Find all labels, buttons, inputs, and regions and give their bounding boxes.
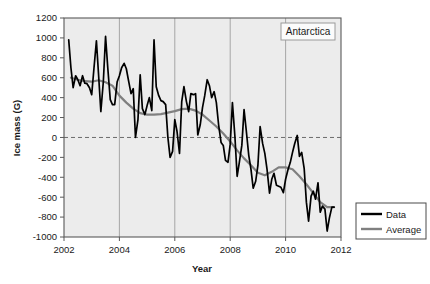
x-tick-label: 2008 bbox=[220, 244, 241, 255]
y-tick-label: 200 bbox=[41, 112, 57, 123]
y-tick-label: 1200 bbox=[36, 12, 57, 23]
annotation-label: Antarctica bbox=[286, 26, 331, 37]
annotation-antarctica: Antarctica bbox=[281, 23, 335, 40]
x-tick-label: 2004 bbox=[109, 244, 130, 255]
y-tick-label: -600 bbox=[38, 192, 57, 203]
x-tick-label: 2010 bbox=[275, 244, 296, 255]
x-tick-label: 2012 bbox=[330, 244, 351, 255]
x-axis-title: Year bbox=[192, 263, 212, 274]
x-tick-label: 2006 bbox=[164, 244, 185, 255]
y-tick-label: 400 bbox=[41, 92, 57, 103]
x-tick-label: 2002 bbox=[53, 244, 74, 255]
y-tick-label: 800 bbox=[41, 52, 57, 63]
y-tick-label: -800 bbox=[38, 211, 57, 222]
legend-label-data: Data bbox=[386, 209, 407, 220]
y-tick-label: 0 bbox=[52, 132, 57, 143]
chart-legend: Data Average bbox=[356, 203, 426, 239]
chart-svg: -1000-800-600-400-2000200400600800100012… bbox=[0, 0, 430, 284]
y-tick-label: -200 bbox=[38, 152, 57, 163]
y-axis-title: Ice mass (G) bbox=[11, 100, 22, 157]
legend-label-average: Average bbox=[386, 224, 421, 235]
y-tick-label: 600 bbox=[41, 72, 57, 83]
y-tick-label: -1000 bbox=[33, 231, 57, 242]
chart-figure: -1000-800-600-400-2000200400600800100012… bbox=[0, 0, 430, 284]
y-tick-label: -400 bbox=[38, 172, 57, 183]
y-tick-label: 1000 bbox=[36, 32, 57, 43]
